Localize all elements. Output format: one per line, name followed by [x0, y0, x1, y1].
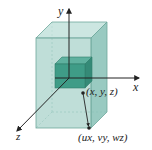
diagram-canvas: [0, 0, 152, 150]
scaled-point-label: (ux, vy, wz): [78, 132, 127, 143]
y-axis-label: y: [58, 5, 63, 17]
outer-box-side-face: [91, 22, 107, 128]
inner-cube-front-face: [55, 64, 85, 88]
scaled-point-marker: [87, 126, 91, 130]
z-axis-label: z: [16, 131, 20, 142]
original-point-label: (x, y, z): [86, 86, 118, 97]
inner-cube: [55, 57, 92, 88]
x-axis-label: x: [133, 81, 138, 93]
scaling-diagram: y x z (x, y, z) (ux, vy, wz): [0, 0, 152, 150]
